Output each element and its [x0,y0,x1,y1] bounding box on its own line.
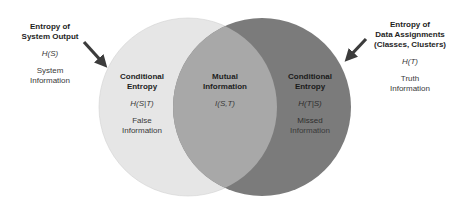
right-arrow-icon [349,39,366,57]
data-assignments-desc-1: Truth [366,74,454,84]
system-output-label: Entropy of System Output H(S) System Inf… [10,22,90,86]
system-output-title-2: System Output [10,32,90,42]
system-output-title-1: Entropy of [10,22,90,32]
right-region-title-2: Entropy [280,82,340,92]
middle-region-title-1: Mutual [195,72,255,82]
left-region-math: H(S|T) [112,99,172,109]
system-output-desc-2: Information [10,76,90,86]
middle-region-math: I(S,T) [195,99,255,109]
left-region-title-2: Entropy [112,82,172,92]
middle-region-title-2: Information [195,82,255,92]
system-output-desc-1: System [10,66,90,76]
left-region-desc-2: Information [112,126,172,136]
data-assignments-title-1: Entropy of [366,20,454,30]
mutual-information-label: Mutual Information I(S,T) [195,72,255,109]
data-assignments-desc-2: Information [366,84,454,94]
left-region-desc-1: False [112,116,172,126]
right-region-desc-2: Information [280,126,340,136]
right-region-title-1: Conditional [280,72,340,82]
conditional-entropy-t-given-s: Conditional Entropy H(T|S) Missed Inform… [280,72,340,136]
data-assignments-title-3: (Classes, Clusters) [366,40,454,50]
left-region-title-1: Conditional [112,72,172,82]
data-assignments-title-2: Data Assignments [366,30,454,40]
right-region-desc-1: Missed [280,116,340,126]
data-assignments-label: Entropy of Data Assignments (Classes, Cl… [366,20,454,94]
data-assignments-math: H(T) [366,57,454,67]
system-output-math: H(S) [10,49,90,59]
conditional-entropy-s-given-t: Conditional Entropy H(S|T) False Informa… [112,72,172,136]
right-region-math: H(T|S) [280,99,340,109]
